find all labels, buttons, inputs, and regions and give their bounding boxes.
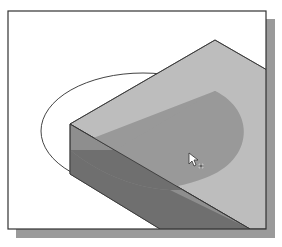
viewport-figure <box>0 0 282 247</box>
cad-viewport <box>0 0 282 247</box>
